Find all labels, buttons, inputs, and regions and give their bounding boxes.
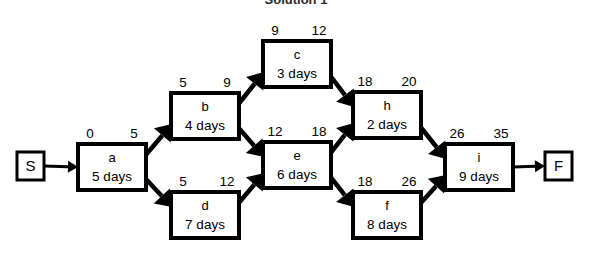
- early-start-e: 12: [267, 124, 282, 139]
- edge-i-to-F: [513, 160, 545, 172]
- activity-node-f[interactable]: f8 days1826: [353, 174, 421, 238]
- activity-label-d: d: [201, 198, 208, 213]
- activity-duration-h: 2 days: [367, 117, 407, 132]
- start-node[interactable]: S: [17, 152, 44, 180]
- activity-duration-f: 8 days: [367, 217, 407, 232]
- edge-h-to-i: [419, 125, 446, 159]
- activity-node-e[interactable]: e6 days1218: [263, 124, 331, 188]
- activity-label-c: c: [294, 47, 301, 62]
- end-node[interactable]: F: [545, 152, 572, 180]
- early-finish-e: 18: [311, 124, 326, 139]
- activity-duration-a: 5 days: [92, 169, 132, 184]
- early-start-c: 9: [271, 23, 279, 38]
- activity-duration-b: 4 days: [185, 118, 225, 133]
- early-finish-f: 26: [401, 174, 416, 189]
- activity-node-c[interactable]: c3 days912: [263, 23, 331, 87]
- edge-d-to-e: [237, 173, 264, 205]
- activity-duration-i: 9 days: [459, 169, 499, 184]
- early-start-b: 5: [179, 75, 187, 90]
- early-finish-b: 9: [223, 75, 231, 90]
- activity-label-e: e: [293, 148, 300, 163]
- activity-node-i[interactable]: i9 days2635: [445, 126, 513, 190]
- end-node-label: F: [554, 157, 563, 174]
- early-start-i: 26: [449, 126, 464, 141]
- activity-node-a[interactable]: a5 days05: [78, 126, 146, 190]
- nodes-layer: SFa5 days05b4 days59d7 days512c3 days912…: [17, 23, 572, 238]
- network-canvas: SFa5 days05b4 days59d7 days512c3 days912…: [0, 0, 592, 256]
- activity-node-b[interactable]: b4 days59: [171, 75, 239, 139]
- activity-label-i: i: [478, 150, 481, 165]
- early-finish-c: 12: [311, 23, 326, 38]
- early-finish-h: 20: [401, 74, 416, 89]
- activity-duration-e: 6 days: [277, 167, 317, 182]
- early-start-d: 5: [179, 174, 187, 189]
- activity-label-b: b: [201, 99, 208, 114]
- edge-b-to-e: [237, 126, 264, 157]
- activity-duration-d: 7 days: [185, 217, 225, 232]
- early-finish-i: 35: [493, 126, 508, 141]
- edge-b-to-c: [237, 72, 264, 106]
- early-start-f: 18: [357, 174, 372, 189]
- edge-S-to-a: [44, 161, 78, 173]
- edge-f-to-i: [419, 175, 446, 205]
- early-start-a: 0: [86, 126, 94, 141]
- early-finish-a: 5: [130, 126, 138, 141]
- activity-node-h[interactable]: h2 days1820: [353, 74, 421, 138]
- early-start-h: 18: [357, 74, 372, 89]
- activity-duration-c: 3 days: [277, 66, 317, 81]
- activity-label-h: h: [383, 98, 390, 113]
- edge-a-to-d: [144, 177, 172, 207]
- network-diagram: Solution 1 SFa5 days05b4 days59d7 days51…: [0, 0, 592, 256]
- start-node-label: S: [25, 157, 35, 174]
- activity-label-a: a: [108, 150, 116, 165]
- activity-label-f: f: [385, 198, 389, 213]
- activity-node-d[interactable]: d7 days512: [171, 174, 239, 238]
- early-finish-d: 12: [219, 174, 234, 189]
- edge-a-to-b: [144, 124, 172, 157]
